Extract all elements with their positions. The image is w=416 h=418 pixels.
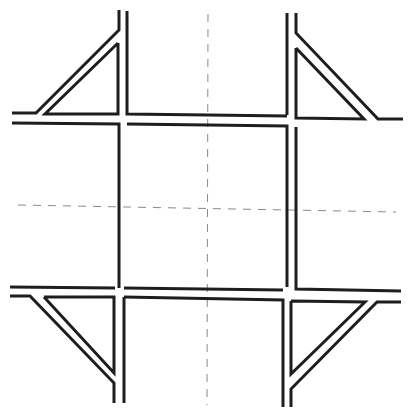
road-edge-sw-upper <box>10 287 115 288</box>
road-edge-center-bottom-upper <box>124 288 283 290</box>
road-network-diagram <box>0 0 416 418</box>
